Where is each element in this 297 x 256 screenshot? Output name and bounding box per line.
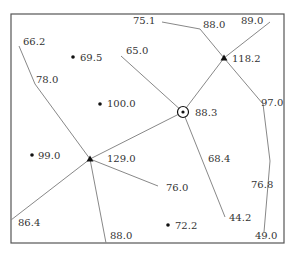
value-label: 88.0 [110, 231, 132, 241]
value-label: 100.0 [107, 99, 136, 109]
value-label: 72.2 [175, 221, 197, 231]
value-label: 68.4 [208, 154, 230, 164]
value-label: 69.5 [80, 53, 102, 63]
value-label: 44.2 [229, 213, 251, 223]
point-marker-icon [166, 223, 170, 227]
value-label: 76.0 [166, 183, 188, 193]
value-label: 66.2 [23, 37, 45, 47]
connector-line [11, 159, 90, 220]
value-label: 76.8 [251, 180, 273, 190]
value-label: 89.0 [241, 16, 263, 26]
connector-line [90, 112, 183, 159]
value-label: 97.0 [261, 98, 283, 108]
connector-line [90, 159, 106, 243]
value-label: 118.2 [232, 54, 261, 64]
value-label: 49.0 [255, 231, 277, 241]
value-label: 129.0 [107, 154, 136, 164]
value-label: 99.0 [38, 151, 60, 161]
connector-line [183, 22, 270, 112]
value-label: 86.4 [18, 218, 40, 228]
value-label: 65.0 [126, 46, 148, 56]
value-label: 88.3 [195, 108, 217, 118]
point-marker-icon [98, 102, 102, 106]
point-marker-icon [71, 55, 75, 59]
value-label: 75.1 [133, 16, 155, 26]
center-node-icon [178, 107, 189, 118]
diagram-canvas: 75.188.089.066.269.565.0118.278.0100.088… [0, 0, 297, 256]
value-label: 78.0 [36, 75, 58, 85]
connector-line [183, 112, 225, 217]
point-marker-icon [30, 153, 34, 157]
value-label: 88.0 [203, 20, 225, 30]
